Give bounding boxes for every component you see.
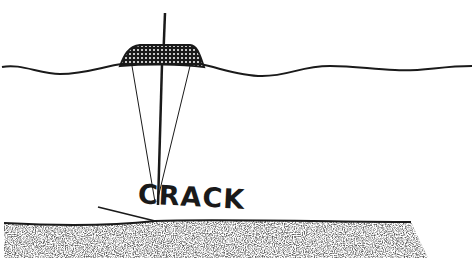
water-surface [2, 64, 472, 76]
vessel [120, 45, 204, 67]
crack-label: CRACK [137, 178, 246, 215]
crack-detection-diagram [0, 0, 474, 272]
